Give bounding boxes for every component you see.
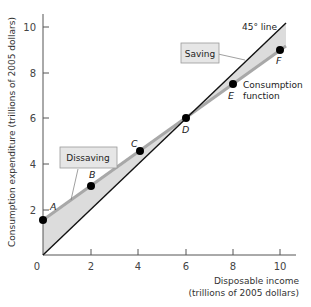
- point-label-c: C: [131, 138, 138, 149]
- 45-degree-line: [43, 23, 286, 255]
- dissaving-label: Dissaving: [66, 153, 110, 163]
- x-axis-title-line1: Disposable income: [214, 276, 300, 286]
- point-f: [276, 46, 284, 54]
- x-tick-label: 8: [230, 261, 236, 272]
- point-label-a: A: [49, 201, 57, 212]
- x-tick-label: 0: [34, 261, 40, 272]
- point-label-b: B: [89, 169, 96, 180]
- saving-leader: [218, 54, 245, 60]
- point-label-e: E: [228, 90, 234, 101]
- consumption-function-label-1: Consumption: [243, 80, 303, 90]
- consumption-function-line: [43, 46, 286, 220]
- x-tick-label: 2: [88, 261, 94, 272]
- point-label-f: F: [276, 55, 282, 66]
- x-tick-label: 10: [274, 261, 287, 272]
- point-b: [87, 182, 95, 190]
- y-tick-label: 8: [30, 68, 36, 79]
- y-axis-title: Consumption expenditure (trillions of 20…: [7, 17, 17, 247]
- x-tick-label: 6: [183, 261, 189, 272]
- 45-line-label: 45° line: [242, 22, 278, 32]
- y-tick-label: 6: [30, 113, 36, 124]
- y-tick-label: 2: [30, 205, 36, 216]
- x-axis-title-line2: (trillions of 2005 dollars): [189, 288, 299, 298]
- y-tick-label: 10: [23, 22, 36, 33]
- y-tick-label: 4: [30, 159, 36, 170]
- point-d: [182, 114, 190, 122]
- point-e: [229, 80, 237, 88]
- point-a: [39, 216, 47, 224]
- consumption-function-label-2: function: [243, 91, 280, 101]
- y-ticks: [43, 27, 49, 210]
- x-tick-label: 4: [135, 261, 141, 272]
- consumption-function-chart: 2 4 6 8 10 0 2 4 6 8 10 Consumption expe…: [0, 0, 311, 307]
- x-ticks: [91, 249, 280, 255]
- point-label-d: D: [182, 124, 189, 135]
- saving-label: Saving: [185, 49, 215, 59]
